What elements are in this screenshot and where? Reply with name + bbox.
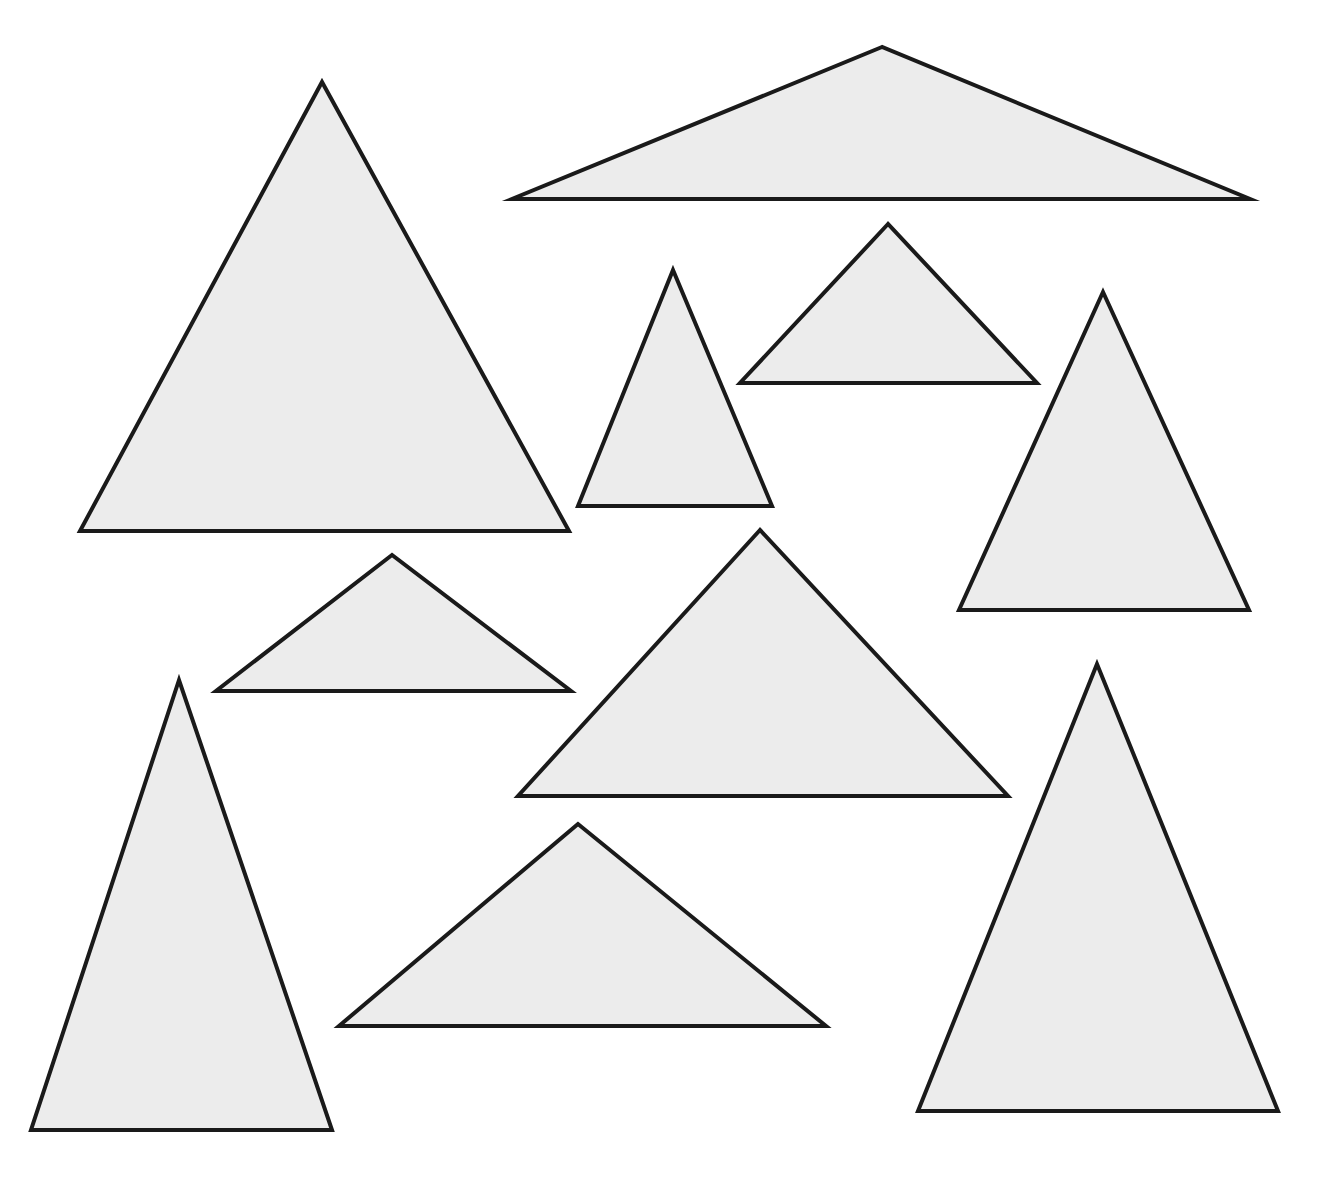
triangles-diagram [0,0,1325,1177]
